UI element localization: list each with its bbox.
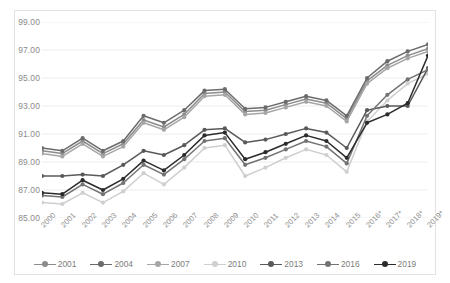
data-point	[284, 100, 288, 104]
data-point	[406, 101, 410, 105]
data-point	[406, 49, 410, 53]
data-point	[141, 163, 145, 167]
data-point	[101, 192, 105, 196]
data-point	[202, 94, 206, 98]
data-point	[162, 182, 166, 186]
data-point	[42, 146, 44, 150]
legend-item-label: 2019	[398, 260, 417, 268]
data-point	[284, 147, 288, 151]
data-point	[42, 201, 44, 205]
data-point	[162, 168, 166, 172]
data-point	[406, 77, 410, 81]
data-point	[101, 174, 105, 178]
legend-item-label: 2001	[58, 260, 77, 268]
data-point	[121, 139, 125, 143]
data-point	[243, 163, 247, 167]
data-point	[385, 112, 389, 116]
data-point	[60, 202, 64, 206]
data-point	[304, 100, 308, 104]
data-point	[202, 139, 206, 143]
series-2016	[42, 68, 428, 200]
y-axis-tick-label: 99.00	[0, 17, 40, 27]
y-axis-tick-label: 89.00	[0, 157, 40, 167]
data-point	[42, 152, 44, 156]
legend-item-2007[interactable]: 2007	[147, 260, 190, 269]
data-point	[345, 119, 349, 123]
data-point	[101, 149, 105, 153]
data-point	[202, 146, 206, 150]
legend-item-2013[interactable]: 2013	[260, 260, 303, 269]
data-point	[223, 93, 227, 97]
data-point	[121, 177, 125, 181]
data-point	[182, 108, 186, 112]
data-point	[345, 146, 349, 150]
data-point	[324, 104, 328, 108]
data-point	[121, 181, 125, 185]
data-point	[263, 138, 267, 142]
chart-container: 99.0097.0095.0093.0091.0089.0087.0085.00…	[0, 0, 450, 283]
data-point	[385, 66, 389, 70]
data-point	[182, 157, 186, 161]
data-point	[243, 140, 247, 144]
data-point	[243, 174, 247, 178]
data-point	[162, 121, 166, 125]
data-point	[284, 156, 288, 160]
y-axis-tick-label: 85.00	[0, 213, 40, 223]
series-2007	[42, 49, 428, 158]
legend-swatch-icon	[317, 260, 339, 269]
data-point	[162, 153, 166, 157]
data-point	[304, 133, 308, 137]
data-point	[223, 87, 227, 91]
legend-item-2019[interactable]: 2019	[374, 260, 417, 269]
data-point	[81, 191, 85, 195]
x-axis: 2000200120022003200420052006200720082009…	[42, 220, 428, 254]
data-point	[141, 159, 145, 163]
series-line	[42, 70, 428, 197]
data-point	[223, 126, 227, 130]
data-point	[406, 82, 410, 86]
data-point	[365, 114, 369, 118]
legend-item-label: 2016	[341, 260, 360, 268]
data-point	[284, 132, 288, 136]
data-point	[304, 94, 308, 98]
data-point	[141, 121, 145, 125]
data-point	[60, 192, 64, 196]
data-point	[121, 145, 125, 149]
data-point	[324, 153, 328, 157]
y-axis: 99.0097.0095.0093.0091.0089.0087.0085.00	[0, 22, 40, 218]
legend-item-2010[interactable]: 2010	[204, 260, 247, 269]
data-point	[81, 173, 85, 177]
data-point	[263, 150, 267, 154]
data-point	[121, 163, 125, 167]
data-point	[385, 59, 389, 63]
chart-legend: 2001200420072010201320162019	[14, 255, 436, 273]
data-point	[324, 139, 328, 143]
y-axis-tick-label: 95.00	[0, 73, 40, 83]
data-point	[81, 178, 85, 182]
data-point	[365, 108, 369, 112]
data-point	[263, 111, 267, 115]
data-point	[202, 89, 206, 93]
plot-area	[42, 22, 428, 218]
data-point	[223, 143, 227, 147]
data-point	[101, 188, 105, 192]
data-point	[121, 189, 125, 193]
data-point	[243, 112, 247, 116]
data-point	[263, 166, 267, 170]
data-point	[284, 105, 288, 109]
y-axis-tick-label: 87.00	[0, 185, 40, 195]
data-point	[365, 76, 369, 80]
data-point	[406, 56, 410, 60]
data-point	[182, 166, 186, 170]
legend-item-2004[interactable]: 2004	[90, 260, 133, 269]
series-2010	[42, 72, 428, 206]
legend-swatch-icon	[374, 260, 396, 269]
legend-item-label: 2007	[171, 260, 190, 268]
legend-swatch-icon	[90, 260, 112, 269]
legend-item-2016[interactable]: 2016	[317, 260, 360, 269]
data-point	[324, 131, 328, 135]
data-point	[60, 174, 64, 178]
data-point	[101, 201, 105, 205]
legend-item-2001[interactable]: 2001	[34, 260, 77, 269]
data-point	[182, 143, 186, 147]
